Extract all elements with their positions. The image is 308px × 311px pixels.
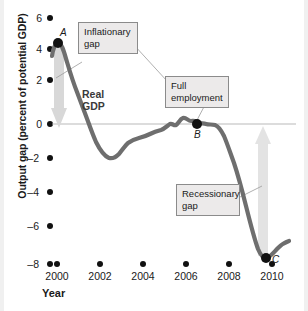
data-point-b <box>192 119 202 129</box>
callout-recessionary-gap-line2: gap <box>182 200 234 212</box>
recessionary-gap-arrow <box>255 126 271 256</box>
series-label-real-gdp-line2: GDP <box>82 100 105 112</box>
series-label-real-gdp: Real GDP <box>82 88 105 112</box>
series-label-real-gdp-line1: Real <box>82 88 105 100</box>
callout-recessionary-gap-line1: Recessionary <box>182 188 234 200</box>
callout-recessionary-gap: Recessionary gap <box>176 184 240 216</box>
figure-output-gap-chart: Output gap (percent of potential GDP) 6 … <box>0 0 308 311</box>
data-point-c-label: C <box>272 254 279 265</box>
callout-inflationary-gap-line2: gap <box>84 38 132 50</box>
callout-full-employment-line2: employment <box>171 92 223 104</box>
chart-plot-area <box>0 0 308 311</box>
callout-full-employment-line1: Full <box>171 80 223 92</box>
callout-inflationary-gap-line1: Inflationary <box>84 26 132 38</box>
data-point-a <box>53 38 63 48</box>
data-point-b-label: B <box>194 129 201 140</box>
data-point-c <box>261 253 271 263</box>
callout-full-employment: Full employment <box>165 76 229 108</box>
data-point-a-label: A <box>60 27 67 38</box>
callout-inflationary-gap: Inflationary gap <box>78 22 138 54</box>
